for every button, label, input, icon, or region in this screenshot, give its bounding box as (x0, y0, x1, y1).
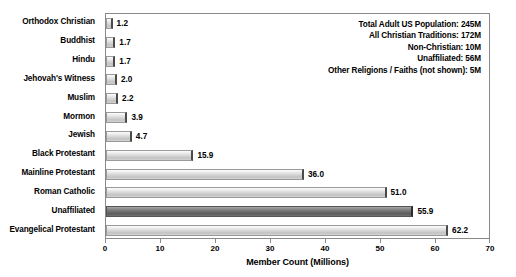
bar-value-label: 4.7 (136, 131, 147, 142)
bar (106, 187, 387, 198)
x-axis-tick-label: 10 (156, 244, 165, 253)
bar-value-label: 1.7 (119, 37, 130, 48)
bar (106, 206, 413, 217)
x-axis-tick-label: 40 (321, 244, 330, 253)
y-axis-label: Mainline Protestant (0, 168, 95, 178)
x-axis-tick-label: 0 (103, 244, 107, 253)
x-axis-tick (435, 239, 436, 243)
y-axis-label: Jehovah's Witness (0, 74, 95, 84)
bar-row: 3.9 (106, 112, 491, 123)
x-axis-tick (325, 239, 326, 243)
bar-value-label: 55.9 (417, 206, 433, 217)
x-axis-tick (380, 239, 381, 243)
y-axis-label: Orthodox Christian (0, 17, 95, 27)
y-axis-label: Unaffiliated (0, 206, 95, 216)
annotation-line: Unaffiliated: 56M (328, 53, 481, 64)
plot-area: 1.21.71.72.02.23.94.715.936.051.055.962.… (105, 13, 490, 239)
bar-row: 36.0 (106, 169, 491, 180)
bar (106, 225, 448, 236)
bar-row: 2.2 (106, 93, 491, 104)
bar (106, 112, 127, 123)
x-axis-tick-label: 30 (266, 244, 275, 253)
summary-annotation: Total Adult US Population: 245MAll Chris… (328, 19, 481, 76)
bar-row: 2.0 (106, 74, 491, 85)
bar (106, 56, 115, 67)
bar-value-label: 2.0 (121, 74, 132, 85)
bar (106, 37, 115, 48)
bar (106, 131, 132, 142)
bar-row: 4.7 (106, 131, 491, 142)
bar-row: 55.9 (106, 206, 491, 217)
annotation-line: Other Religions / Faiths (not shown): 5M (328, 65, 481, 76)
bar-row: 62.2 (106, 225, 491, 236)
bar-value-label: 15.9 (197, 150, 213, 161)
y-axis-label: Mormon (0, 112, 95, 122)
bar-value-label: 3.9 (131, 112, 142, 123)
y-axis-label: Buddhist (0, 36, 95, 46)
x-axis-tick (105, 239, 106, 243)
bar (106, 169, 304, 180)
annotation-line: Total Adult US Population: 245M (328, 19, 481, 30)
y-axis-label: Muslim (0, 93, 95, 103)
y-axis-label: Jewish (0, 130, 95, 140)
annotation-line: All Christian Traditions: 172M (328, 30, 481, 41)
y-axis-label: Hindu (0, 55, 95, 65)
x-axis-title: Member Count (Millions) (105, 257, 490, 267)
x-axis-tick (270, 239, 271, 243)
bar-value-label: 1.7 (119, 56, 130, 67)
bar (106, 150, 193, 161)
x-axis-tick-label: 70 (486, 244, 495, 253)
bar-chart: Orthodox ChristianBuddhistHinduJehovah's… (0, 0, 516, 277)
x-axis-tick-label: 60 (431, 244, 440, 253)
bar-row: 51.0 (106, 187, 491, 198)
bar-value-label: 2.2 (122, 93, 133, 104)
bar-value-label: 36.0 (308, 169, 324, 180)
x-axis-tick-label: 20 (211, 244, 220, 253)
x-axis: 010203040506070 (105, 239, 490, 259)
bar (106, 18, 113, 29)
x-axis-tick (489, 239, 490, 243)
annotation-line: Non-Christian: 10M (328, 42, 481, 53)
y-axis-label: Roman Catholic (0, 187, 95, 197)
y-axis-category-labels: Orthodox ChristianBuddhistHinduJehovah's… (0, 13, 100, 239)
x-axis-tick (215, 239, 216, 243)
y-axis-label: Evangelical Protestant (0, 225, 95, 235)
x-axis-tick (160, 239, 161, 243)
bar (106, 93, 118, 104)
bar-value-label: 51.0 (391, 187, 407, 198)
bar-row: 15.9 (106, 150, 491, 161)
bar-value-label: 1.2 (117, 18, 128, 29)
y-axis-label: Black Protestant (0, 149, 95, 159)
bar-value-label: 62.2 (452, 225, 468, 236)
x-axis-tick-label: 50 (376, 244, 385, 253)
bar (106, 74, 117, 85)
